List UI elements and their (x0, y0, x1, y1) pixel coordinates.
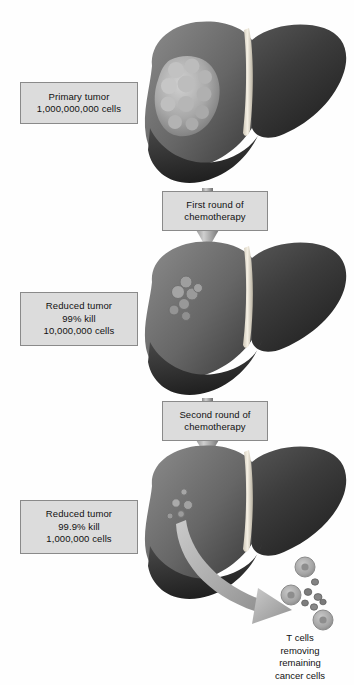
stage-label-reduced-tumor-99: Reduced tumor 99% kill 10,000,000 cells (20, 292, 138, 346)
t-cell-caption-line: remaining (248, 657, 352, 670)
stage-label-line: 99.9% kill (58, 521, 100, 534)
t-cell-icon (281, 585, 301, 605)
cancer-cell-icon-group (302, 579, 327, 610)
stage-label-line: 99% kill (62, 313, 96, 326)
stage-label-reduced-tumor-999: Reduced tumor 99.9% kill 1,000,000 cells (20, 500, 138, 554)
tumor-mass-icon-stage-2 (169, 276, 203, 321)
stage-label-line: 1,000,000,000 cells (37, 103, 121, 116)
t-cell-icon (313, 610, 333, 630)
stage-label-line: 1,000,000 cells (46, 533, 111, 546)
t-cell-caption-line: T cells (248, 632, 352, 645)
stage-label-line: 10,000,000 cells (44, 325, 115, 338)
curved-arrow-icon (176, 520, 292, 624)
liver-icon-stage-3 (145, 445, 346, 630)
stage-label-primary-tumor: Primary tumor 1,000,000,000 cells (20, 82, 138, 124)
tumor-mass-icon-stage-1 (155, 56, 220, 136)
treatment-label-line: First round of (186, 199, 243, 212)
treatment-label-line: chemotherapy (184, 211, 245, 224)
t-cell-caption-line: cancer cells (248, 670, 352, 683)
stage-label-line: Reduced tumor (46, 300, 112, 313)
liver-icon-stage-1 (145, 21, 346, 183)
treatment-label-first-round: First round of chemotherapy (162, 191, 268, 231)
t-cell-caption-line: removing (248, 645, 352, 658)
treatment-label-line: Second round of (179, 409, 250, 422)
t-cell-icon (295, 557, 315, 577)
liver-icon-stage-2 (145, 241, 346, 395)
tumor-mass-icon-stage-3 (167, 489, 193, 519)
t-cell-icon-group (281, 557, 333, 630)
treatment-label-line: chemotherapy (184, 421, 245, 434)
stage-label-line: Reduced tumor (46, 508, 112, 521)
figure-canvas: Primary tumor 1,000,000,000 cells First … (0, 0, 354, 685)
treatment-label-second-round: Second round of chemotherapy (162, 401, 268, 441)
t-cell-caption: T cells removing remaining cancer cells (248, 632, 352, 682)
stage-label-line: Primary tumor (49, 91, 110, 104)
